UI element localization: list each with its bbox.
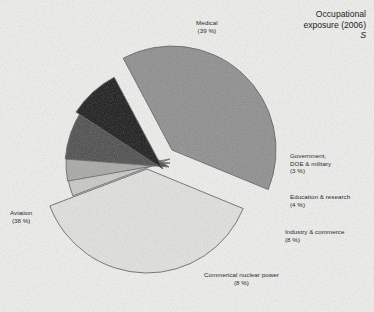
slice-label-nuclear: Commerical nuclear power (8 %) — [204, 271, 279, 286]
slice-label-government-name-line2: DOE & military — [290, 160, 331, 167]
slice-label-government-value: (3 %) — [290, 167, 331, 175]
slice-label-education-name: Education & research — [290, 193, 350, 200]
slice-label-medical-name: Medical — [196, 19, 218, 26]
slice-label-medical: Medical (39 %) — [196, 19, 218, 34]
slice-label-nuclear-name: Commerical nuclear power — [204, 271, 279, 278]
chart-title-line1: Occupational — [316, 9, 366, 19]
slice-label-government: Government, DOE & military (3 %) — [290, 152, 331, 175]
slice-label-industry-name: Industry & commerce — [285, 228, 344, 235]
pie-slices-generated — [50, 46, 276, 273]
slice-label-government-name-line1: Government, — [290, 152, 326, 159]
slice-label-medical-value: (39 %) — [196, 27, 218, 35]
slice-label-nuclear-value: (8 %) — [204, 279, 279, 287]
slice-label-aviation: Aviation (38 %) — [10, 209, 32, 224]
chart-title-marker: S — [303, 30, 366, 41]
slice-label-education: Education & research (4 %) — [290, 193, 350, 208]
slice-label-aviation-value: (38 %) — [10, 217, 32, 225]
pie-chart-figure: Occupational exposure (2006) S Medical (… — [0, 0, 374, 312]
slice-label-industry-value: (8 %) — [285, 236, 344, 244]
slice-label-aviation-name: Aviation — [10, 209, 32, 216]
chart-title: Occupational exposure (2006) S — [303, 9, 366, 41]
slice-label-education-value: (4 %) — [290, 201, 350, 209]
slice-label-industry: Industry & commerce (8 %) — [285, 228, 344, 243]
chart-title-line2: exposure (2006) — [303, 20, 366, 30]
